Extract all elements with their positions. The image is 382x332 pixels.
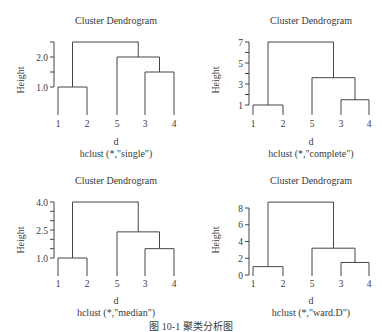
leaf-label: 1 (251, 119, 256, 129)
y-axis-label: Height (210, 226, 221, 253)
dendrogram-panel-ward.D: Cluster Dendrogram02468Height12534dhclus… (210, 175, 372, 319)
y-tick-label: 5 (238, 59, 243, 69)
leaf-label: 4 (172, 279, 177, 289)
dendrogram-branches (253, 42, 369, 115)
leaf-label: 5 (310, 279, 315, 289)
y-tick-label: 6 (238, 220, 243, 230)
x-axis-label: d (309, 136, 314, 147)
panel-title: Cluster Dendrogram (270, 175, 352, 186)
y-axis-label: Height (15, 226, 26, 253)
y-axis: 02468 (238, 204, 249, 281)
dendrogram-branches (58, 202, 174, 276)
y-axis: 1357 (238, 38, 249, 111)
dendrogram-branches (253, 202, 369, 276)
y-tick-label: 8 (238, 204, 243, 214)
panel-title: Cluster Dendrogram (270, 15, 352, 26)
x-axis-label: d (114, 136, 119, 147)
leaf-label: 2 (85, 119, 90, 129)
y-axis: 1.02.54.0 (36, 198, 54, 264)
method-sublabel: hclust (*,"median") (77, 307, 155, 319)
y-tick-label: 1 (238, 101, 243, 111)
y-axis-label: Height (210, 66, 221, 93)
leaf-label: 4 (172, 119, 177, 129)
dendrogram-branches (58, 42, 174, 115)
leaf-label: 5 (115, 119, 120, 129)
y-tick-label: 2 (238, 254, 243, 264)
dendrogram-figure: Cluster Dendrogram1.02.0Height12534dhclu… (0, 0, 382, 332)
y-tick-label: 2.5 (36, 226, 48, 236)
panel-title: Cluster Dendrogram (75, 175, 157, 186)
y-tick-label: 1.0 (36, 254, 48, 264)
x-axis-label: d (309, 295, 314, 306)
dendrogram-panel-median: Cluster Dendrogram1.02.54.0Height12534dh… (15, 175, 177, 319)
dendrogram-panel-single: Cluster Dendrogram1.02.0Height12534dhclu… (15, 15, 177, 160)
y-tick-label: 7 (238, 38, 243, 48)
y-tick-label: 0 (238, 271, 243, 281)
leaf-label: 1 (251, 279, 256, 289)
y-tick-label: 4 (238, 237, 243, 247)
x-axis-label: d (114, 295, 119, 306)
leaf-label: 3 (143, 119, 148, 129)
leaf-label: 4 (367, 119, 372, 129)
y-axis: 1.02.0 (36, 42, 54, 93)
method-sublabel: hclust (*,"single") (80, 148, 153, 160)
method-sublabel: hclust (*,"ward.D") (272, 307, 350, 319)
y-tick-label: 1.0 (36, 83, 48, 93)
leaf-label: 5 (310, 119, 315, 129)
figure-caption: 图 10-1 聚类分析图 (0, 321, 382, 332)
leaf-label: 3 (339, 119, 344, 129)
leaf-label: 1 (56, 119, 61, 129)
leaf-label: 2 (85, 279, 90, 289)
leaf-label: 4 (367, 279, 372, 289)
leaf-label: 3 (143, 279, 148, 289)
leaf-label: 3 (339, 279, 344, 289)
leaf-label: 2 (281, 119, 286, 129)
leaf-label: 2 (281, 279, 286, 289)
y-axis-label: Height (15, 66, 26, 93)
leaf-label: 5 (115, 279, 120, 289)
leaf-label: 1 (56, 279, 61, 289)
method-sublabel: hclust (*,"complete") (268, 148, 353, 160)
y-tick-label: 4.0 (36, 198, 48, 208)
y-tick-label: 2.0 (36, 53, 48, 63)
y-tick-label: 3 (238, 80, 243, 90)
dendrogram-panel-complete: Cluster Dendrogram1357Height12534dhclust… (210, 15, 372, 160)
panel-title: Cluster Dendrogram (75, 15, 157, 26)
